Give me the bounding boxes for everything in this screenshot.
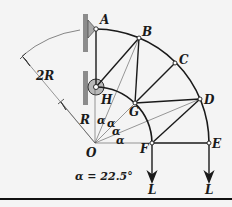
dimension-arrow-2r [20,53,30,66]
bottom-rule [0,198,232,200]
angle-label-1: α [97,114,106,127]
angle-label-4: α [116,134,125,147]
label-c: C [179,53,189,67]
label-f: F [139,142,150,156]
dimension-label-2r: 2R [35,69,54,83]
joint-c [173,61,177,65]
joint-a [94,27,98,31]
joint-e [207,141,211,145]
truss-diagram: A B C D E F G H O 2R R α α α α L L α = 2… [0,0,232,207]
dimension-arc-2r [22,30,80,56]
label-e: E [211,137,222,151]
joint-d [198,97,202,101]
label-d: D [203,93,215,107]
label-a: A [99,13,109,27]
label-b: B [141,25,152,39]
wall-lower [83,71,88,105]
joint-h [94,85,99,90]
joint-b [137,36,141,40]
load-label-f: L [147,183,156,197]
load-label-e: L [204,183,213,197]
label-g: G [129,105,139,119]
wall-upper [83,14,88,52]
alpha-equation: α = 22.5° [75,170,133,183]
label-h: H [100,93,113,107]
joint-f [150,141,154,145]
label-o: O [86,146,97,160]
dimension-label-r: R [79,113,90,127]
load-arrows [148,143,213,182]
